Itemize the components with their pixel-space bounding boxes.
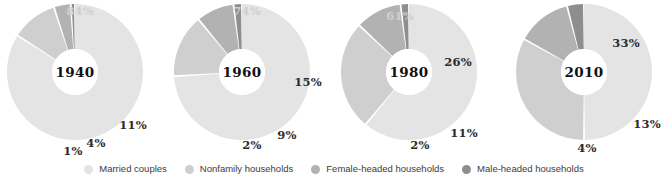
legend-swatch-icon (462, 165, 471, 174)
slice-percentage-label: 74% (233, 4, 261, 18)
legend-item-married[interactable]: Married couples (84, 164, 167, 174)
chart-1980: 198061%26%11%2% (334, 0, 501, 152)
legend-label: Married couples (99, 164, 167, 174)
chart-year-label: 1960 (222, 64, 261, 80)
slice-percentage-label: 61% (386, 9, 414, 23)
pie-wrap: 198061%26%11%2% (334, 0, 501, 152)
legend-item-male[interactable]: Male-headed households (462, 164, 584, 174)
legend-swatch-icon (185, 165, 194, 174)
slice-percentage-label: 13% (633, 117, 661, 131)
chart-1940: 194084%11%4%1% (0, 0, 167, 152)
slice-percentage-label: 11% (119, 118, 147, 132)
legend-item-female[interactable]: Female-headed households (311, 164, 444, 174)
pie-wrap: 196074%15%9%2% (167, 0, 334, 152)
slice-percentage-label: 26% (444, 55, 472, 69)
slice-percentage-label: 84% (66, 4, 94, 18)
chart-year-label: 1940 (55, 64, 94, 80)
slice-percentage-label: 15% (294, 75, 322, 89)
legend-swatch-icon (311, 165, 320, 174)
slice-percentage-label: 2% (242, 138, 261, 152)
slice-percentage-label: 9% (277, 128, 296, 142)
chart-legend: Married couplesNonfamily householdsFemal… (0, 158, 668, 180)
slice-percentage-label: 11% (450, 126, 478, 140)
chart-2010: 201050%33%13%4% (501, 0, 668, 152)
pie-wrap: 194084%11%4%1% (0, 0, 167, 152)
chart-year-label: 1980 (389, 64, 428, 80)
slice-percentage-label: 50% (526, 56, 554, 70)
chart-year-label: 2010 (564, 64, 603, 80)
charts-row: 194084%11%4%1%196074%15%9%2%198061%26%11… (0, 0, 668, 152)
legend-label: Male-headed households (477, 164, 584, 174)
slice-percentage-label: 4% (577, 141, 596, 155)
pie-chart-figure: 194084%11%4%1%196074%15%9%2%198061%26%11… (0, 0, 668, 180)
legend-label: Nonfamily households (200, 164, 293, 174)
slice-percentage-label: 1% (63, 144, 82, 158)
legend-swatch-icon (84, 165, 93, 174)
slice-percentage-label: 2% (410, 138, 429, 152)
slice-percentage-label: 33% (612, 36, 640, 50)
chart-1960: 196074%15%9%2% (167, 0, 334, 152)
legend-label: Female-headed households (326, 164, 444, 174)
pie-wrap: 201050%33%13%4% (501, 0, 668, 152)
legend-item-nonfamily[interactable]: Nonfamily households (185, 164, 293, 174)
slice-percentage-label: 4% (86, 136, 105, 150)
